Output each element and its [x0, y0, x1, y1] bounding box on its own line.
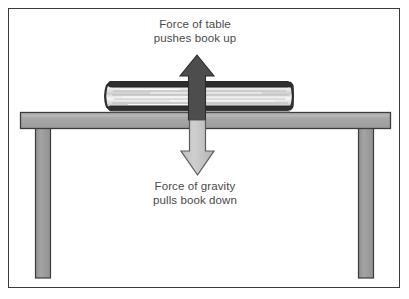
- table-leg-left: [36, 127, 51, 278]
- gravity-force-caption: Force of gravity pulls book down: [60, 179, 330, 207]
- normal-force-caption-line-2: pushes book up: [60, 31, 330, 45]
- table-leg-right: [359, 127, 374, 278]
- physics-force-diagram: Force of table pushes book up Force of g…: [0, 0, 409, 299]
- normal-force-caption: Force of table pushes book up: [60, 17, 330, 45]
- gravity-force-caption-line-1: Force of gravity: [60, 179, 330, 193]
- normal-force-caption-line-1: Force of table: [60, 17, 330, 31]
- gravity-force-caption-line-2: pulls book down: [60, 193, 330, 207]
